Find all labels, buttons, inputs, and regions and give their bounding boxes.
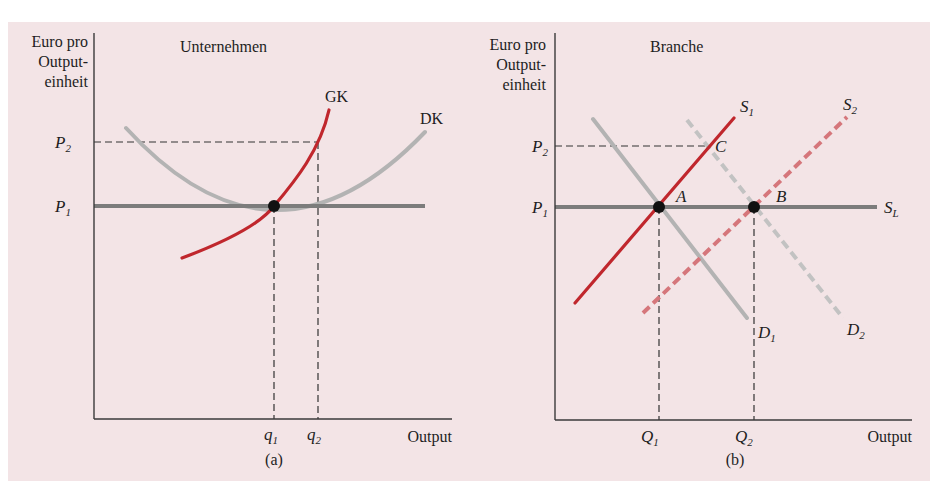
point-b-label: B — [776, 187, 787, 206]
panel-b-x-label: Output — [868, 428, 913, 446]
panel-b-title: Branche — [650, 38, 703, 55]
panel-a-caption: (a) — [265, 451, 283, 469]
point-a-marker — [653, 201, 665, 213]
firm-equilibrium-point — [268, 200, 280, 212]
gk-label: GK — [325, 88, 349, 105]
point-a-label: A — [675, 187, 687, 206]
point-b-marker — [748, 201, 760, 213]
dk-label: DK — [420, 110, 444, 127]
point-c-label: C — [715, 137, 727, 156]
panel-b-y-label-line3: einheit — [502, 76, 546, 93]
panel-a-title: Unternehmen — [180, 38, 267, 55]
panel-b-y-label-line2: Output- — [496, 56, 546, 74]
figure-svg: Euro pro Output- einheit Unternehmen GK … — [0, 0, 942, 495]
panel-a-y-label-line1: Euro pro — [32, 33, 88, 51]
panel-a-y-label-line3: einheit — [44, 73, 88, 90]
panel-a-x-label: Output — [408, 428, 453, 446]
panel-a-y-label-line2: Output- — [38, 53, 88, 71]
figure: Euro pro Output- einheit Unternehmen GK … — [0, 0, 942, 495]
panel-b-y-label-line1: Euro pro — [490, 36, 546, 54]
panel-b-caption: (b) — [726, 451, 745, 469]
